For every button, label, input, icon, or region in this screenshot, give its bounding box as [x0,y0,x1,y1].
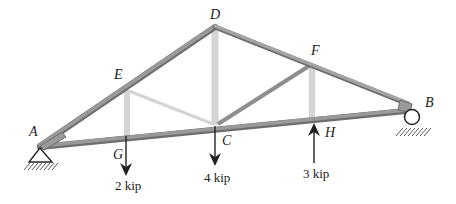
joint-label-D: D [210,8,220,22]
joint-label-B: B [425,96,434,110]
load-label-H: 3 kip [303,167,329,180]
joint-label-F: F [311,44,320,58]
joint-label-A: A [29,125,38,139]
joint-label-H: H [325,126,335,140]
joint-label-E: E [114,68,123,82]
load-label-C: 4 kip [204,171,230,184]
pin-support-A [24,148,58,170]
member-EC [129,91,213,124]
joint-label-C: C [222,134,231,148]
joint-label-G: G [113,148,123,162]
member-FC [218,66,309,124]
load-label-G: 2 kip [115,179,141,192]
load-arrow-H [308,123,320,163]
